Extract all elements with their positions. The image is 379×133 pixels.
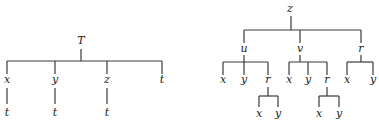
u-r-child-x: x [256, 107, 263, 120]
v-child-y: y [304, 73, 312, 86]
right-node-r: r [358, 42, 364, 55]
right-tree: z u v r x y r x y x y r x [220, 2, 377, 120]
r-child-x: x [344, 73, 351, 86]
u-r-child-y: y [274, 107, 282, 120]
left-leaf-t: t [105, 106, 110, 119]
right-node-v: v [297, 42, 304, 55]
left-root-node: T [77, 34, 86, 47]
right-node-u: u [240, 42, 247, 55]
u-child-y: y [240, 73, 248, 86]
u-child-x: x [220, 73, 227, 86]
left-node-y: y [51, 73, 59, 86]
v-child-r: r [324, 73, 330, 86]
left-leaf-t: t [53, 106, 58, 119]
left-tree: T x y z t t t t [4, 34, 165, 119]
right-root-node: z [286, 2, 293, 15]
v-child-x: x [286, 73, 293, 86]
v-r-child-y: y [335, 107, 343, 120]
u-child-r: r [265, 73, 271, 86]
left-node-x: x [4, 73, 11, 86]
left-node-z: z [103, 73, 110, 86]
left-leaf-t: t [5, 106, 10, 119]
v-r-child-x: x [316, 107, 323, 120]
left-node-t: t [160, 73, 165, 86]
r-child-y: y [369, 73, 377, 86]
tree-diagram: T x y z t t t t z u v r x y r [0, 0, 379, 133]
